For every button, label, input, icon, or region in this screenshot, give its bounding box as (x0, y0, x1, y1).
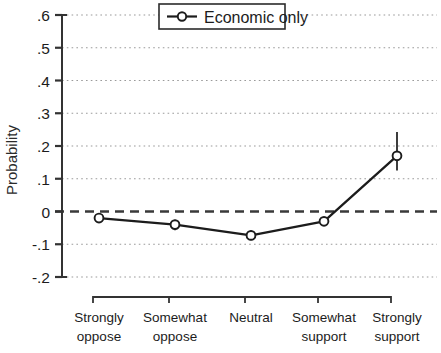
y-tick-label: .1 (37, 171, 50, 188)
x-tick-label-line: oppose (77, 329, 121, 344)
x-tick-label-line: Neutral (229, 310, 273, 325)
y-tick-label: 0 (41, 204, 50, 221)
chart-container: .6.5.4.3.2.10-.1-.2 StronglyopposeSomewh… (0, 0, 441, 353)
data-point-marker (95, 214, 104, 223)
x-tick-label-line: Somewhat (292, 310, 356, 325)
y-tick-label: .6 (37, 7, 50, 24)
x-tick-label-line: support (301, 329, 346, 344)
y-axis: .6.5.4.3.2.10-.1-.2 (32, 7, 67, 286)
x-tick-label-line: Strongly (74, 310, 124, 325)
data-point-marker (247, 231, 256, 240)
y-tick-label: .3 (37, 105, 50, 122)
y-tick-label: .5 (37, 40, 50, 57)
x-tick-label-line: Somewhat (143, 310, 207, 325)
x-tick-label-line: support (374, 329, 419, 344)
data-point-marker (171, 220, 180, 229)
x-tick-label-line: Strongly (372, 310, 422, 325)
probability-line-chart: .6.5.4.3.2.10-.1-.2 StronglyopposeSomewh… (0, 0, 441, 353)
legend-entry-label: Economic only (204, 9, 308, 26)
data-point-marker (393, 151, 402, 160)
x-tick-label-line: oppose (153, 329, 197, 344)
chart-legend: Economic only (159, 4, 308, 29)
x-tick-label: Neutral (229, 310, 273, 325)
y-tick-label: -.2 (32, 269, 50, 286)
y-tick-label: -.1 (32, 236, 50, 253)
y-tick-label: .4 (37, 73, 50, 90)
legend-marker-circle (178, 12, 186, 20)
data-point-marker (320, 217, 329, 226)
y-axis-label: Probability (3, 124, 20, 195)
y-tick-label: .2 (37, 138, 50, 155)
